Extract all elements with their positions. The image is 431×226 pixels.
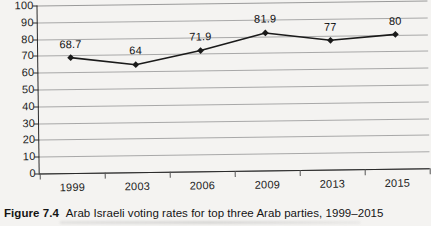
- caption-text: Arab Israeli voting rates for top three …: [66, 207, 384, 219]
- caption-figure-number: Figure 7.4: [4, 207, 59, 219]
- y-axis-tick-100: [32, 5, 37, 6]
- data-label-2009: 81.9: [254, 14, 276, 25]
- x-axis-label-2003: 2003: [125, 180, 150, 192]
- data-label-2003: 64: [129, 46, 142, 57]
- figure-caption: Figure 7.4Arab Israeli voting rates for …: [4, 206, 428, 220]
- y-axis-tick-10: [34, 157, 39, 158]
- series-line: [70, 31, 395, 65]
- data-point-marker-1999: [67, 54, 74, 61]
- data-point-marker-2009: [262, 29, 269, 36]
- y-axis-tick-80: [33, 39, 38, 40]
- x-axis-label-2006: 2006: [190, 179, 215, 191]
- data-point-marker-2013: [327, 37, 334, 44]
- y-axis-tick-50: [34, 89, 39, 90]
- plot-area: 68.76471.981.97780: [37, 0, 429, 173]
- y-axis-tick-70: [33, 56, 38, 57]
- line-series: [37, 0, 429, 173]
- y-axis-tick-60: [33, 73, 38, 74]
- x-axis-tick-labels: 199920032006200920132015: [40, 176, 430, 197]
- y-axis-tick-30: [34, 123, 39, 124]
- data-label-2015: 80: [389, 15, 402, 26]
- x-axis-tick-3: [235, 171, 236, 177]
- x-axis-tick-5: [365, 169, 366, 175]
- chart-canvas: 0102030405060708090100 68.76471.981.9778…: [0, 0, 430, 198]
- y-axis-tick-labels: 0102030405060708090100: [0, 0, 36, 174]
- data-label-2006: 71.9: [189, 31, 211, 42]
- x-axis-label-2013: 2013: [320, 177, 345, 189]
- x-axis-tick-0: [40, 173, 41, 179]
- y-axis-tick-90: [33, 22, 38, 23]
- x-axis-tick-1: [105, 173, 106, 179]
- data-point-marker-2003: [132, 61, 139, 68]
- x-axis-tick-2: [170, 172, 171, 178]
- data-point-marker-2015: [392, 31, 399, 38]
- x-axis-label-2009: 2009: [255, 178, 280, 190]
- x-axis-label-2015: 2015: [385, 177, 410, 189]
- x-axis-tick-4: [300, 170, 301, 176]
- y-axis-label-100: 100: [14, 0, 33, 11]
- x-axis-label-1999: 1999: [60, 181, 85, 193]
- data-label-1999: 68.7: [59, 38, 81, 49]
- data-point-marker-2006: [197, 47, 204, 54]
- data-label-2013: 77: [324, 21, 337, 32]
- y-axis-tick-20: [34, 140, 39, 141]
- scan-artifact: [60, 221, 360, 224]
- y-axis-tick-40: [34, 106, 39, 107]
